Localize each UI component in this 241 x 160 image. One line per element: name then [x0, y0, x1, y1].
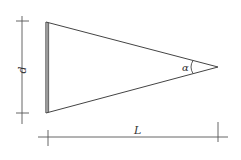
length-dimension — [38, 122, 228, 146]
triangle-top-edge — [46, 22, 218, 67]
triangle-bottom-edge — [46, 67, 218, 113]
wedge-diagram: d α L — [0, 0, 241, 160]
length-label: L — [133, 124, 141, 137]
angle-label: α — [182, 62, 189, 73]
triangle — [46, 22, 218, 113]
height-label: d — [16, 66, 29, 73]
angle-arc — [191, 61, 193, 74]
triangle-base-fill — [46, 22, 49, 113]
